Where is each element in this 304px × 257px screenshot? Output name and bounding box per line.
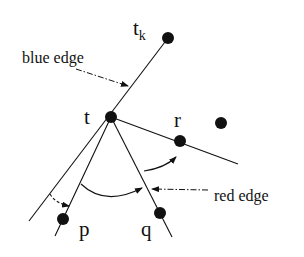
- edges: [29, 38, 238, 237]
- node-p: [57, 213, 69, 225]
- arc-blue-to-p: [50, 194, 69, 206]
- label-r: r: [174, 108, 181, 132]
- arc-p-to-q: [81, 184, 142, 197]
- arc-q-to-r: [144, 157, 176, 171]
- label-red-edge: red edge: [214, 187, 269, 205]
- blue-edge-pointer: [76, 69, 128, 86]
- node-q: [154, 207, 166, 219]
- diagram-canvas: tk blue edge t r red edge p q: [0, 0, 304, 257]
- label-t: t: [84, 105, 90, 129]
- node-r: [174, 135, 186, 147]
- red-edge-pointer: [152, 189, 208, 190]
- pointers: [76, 69, 208, 190]
- label-blue-edge: blue edge: [22, 49, 84, 67]
- node-extra: [215, 117, 227, 129]
- node-t: [105, 111, 117, 123]
- rotation-arrows: [50, 157, 176, 206]
- label-p: p: [79, 217, 90, 241]
- node-t-k: [162, 32, 174, 44]
- label-q: q: [141, 217, 152, 241]
- label-t-k: tk: [133, 16, 146, 43]
